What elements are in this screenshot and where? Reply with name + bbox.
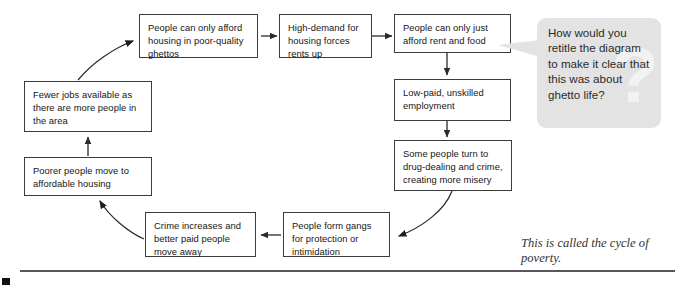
callout-tail: [498, 40, 540, 57]
node-label: Poorer people move to affordable housing: [33, 164, 144, 190]
diagram-canvas: People can only afford housing in poor-q…: [0, 0, 675, 288]
callout-question: How would you retitle the diagram to mak…: [548, 25, 653, 102]
node-label: People form gangs for protection or inti…: [292, 219, 382, 259]
edge-crimeinc-to-poorer: [100, 201, 144, 239]
page-marker: [2, 278, 10, 285]
edge-crime-to-gangs: [399, 191, 452, 236]
node-label: Low-paid, unskilled employment: [403, 86, 503, 112]
node-afford-rent-food: People can only just afford rent and foo…: [394, 14, 511, 53]
node-label: Some people turn to drug-dealing and cri…: [403, 147, 504, 187]
node-label: People can only just afford rent and foo…: [403, 21, 503, 47]
node-high-demand-rents: High-demand for housing forces rents up: [279, 14, 372, 58]
node-people-form-gangs: People form gangs for protection or inti…: [283, 212, 390, 257]
edge-fewerjobs-to-ghettos: [78, 41, 133, 80]
node-poor-quality-ghettos: People can only afford housing in poor-q…: [139, 14, 258, 58]
node-low-paid-employment: Low-paid, unskilled employment: [394, 79, 511, 121]
node-poorer-people-move: Poorer people move to affordable housing: [24, 157, 152, 196]
node-drug-dealing-crime: Some people turn to drug-dealing and cri…: [394, 140, 512, 191]
node-fewer-jobs: Fewer jobs available as there are more p…: [24, 81, 152, 132]
node-label: People can only afford housing in poor-q…: [148, 21, 250, 61]
node-label: Fewer jobs available as there are more p…: [33, 88, 144, 128]
callout-bubble: ? How would you retitle the diagram to m…: [537, 18, 661, 128]
footer-rule: [20, 270, 675, 272]
node-label: High-demand for housing forces rents up: [288, 21, 364, 61]
node-crime-increases: Crime increases and better paid people m…: [145, 212, 256, 257]
node-label: Crime increases and better paid people m…: [154, 219, 248, 259]
cycle-caption: This is called the cycle of poverty.: [521, 236, 671, 266]
